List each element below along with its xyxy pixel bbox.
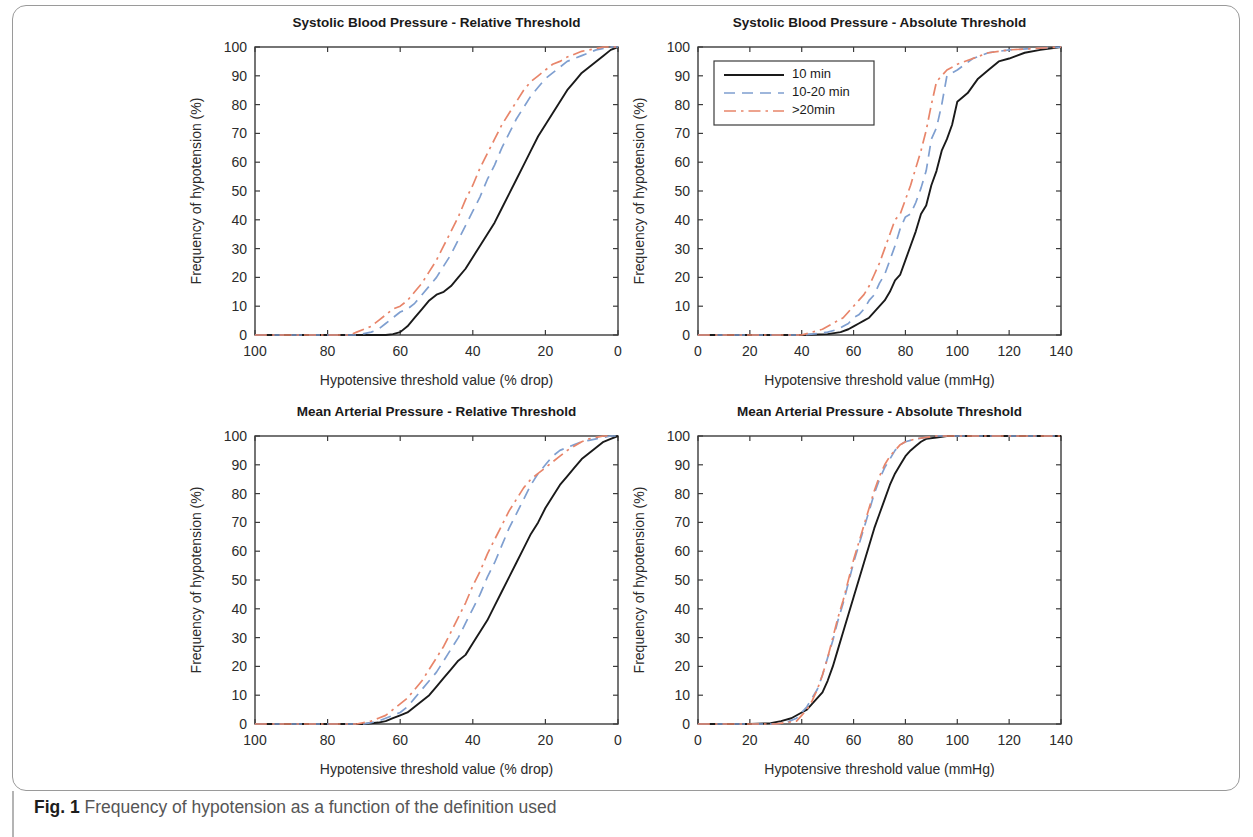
y-tick-label: 10 [231,687,247,703]
y-tick-label: 90 [231,457,247,473]
y-tick-label: 90 [674,457,690,473]
y-tick-label: 20 [231,658,247,674]
y-axis-label: Frequency of hypotension (%) [631,98,647,285]
y-tick-label: 10 [674,298,690,314]
x-tick-label: 100 [243,732,267,748]
chart-title: Systolic Blood Pressure - Relative Thres… [292,15,580,30]
chart-title: Mean Arterial Pressure - Absolute Thresh… [737,404,1022,419]
y-tick-label: 100 [224,39,248,55]
x-tick-label: 120 [997,343,1021,359]
chart-title: Systolic Blood Pressure - Absolute Thres… [733,15,1027,30]
x-tick-label: 100 [946,343,970,359]
x-tick-label: 100 [243,343,267,359]
y-tick-label: 50 [674,183,690,199]
chart-panel-map-absolute: Mean Arterial Pressure - Absolute Thresh… [626,400,1076,790]
chart-svg-sbp_relative: Systolic Blood Pressure - Relative Thres… [183,11,633,401]
y-tick-label: 30 [231,241,247,257]
y-tick-label: 20 [674,658,690,674]
x-tick-label: 20 [742,732,758,748]
y-tick-label: 80 [231,486,247,502]
series-line--20min [698,436,1061,724]
x-tick-label: 80 [320,343,336,359]
y-tick-label: 50 [231,183,247,199]
legend-label: 10-20 min [792,84,850,99]
legend-label: >20min [792,102,835,117]
y-tick-label: 40 [674,601,690,617]
y-tick-label: 80 [231,97,247,113]
y-tick-label: 60 [674,543,690,559]
x-tick-label: 140 [1049,343,1073,359]
x-tick-label: 80 [320,732,336,748]
chart-panel-map-relative: Mean Arterial Pressure - Relative Thresh… [183,400,633,790]
chart-panel-sbp-absolute: Systolic Blood Pressure - Absolute Thres… [626,11,1076,401]
x-tick-label: 80 [898,732,914,748]
panel-grid: Systolic Blood Pressure - Relative Thres… [13,6,1241,792]
y-tick-label: 50 [231,572,247,588]
x-tick-label: 40 [794,732,810,748]
caption-left-rule [12,791,14,837]
x-tick-label: 40 [794,343,810,359]
y-tick-label: 90 [231,68,247,84]
y-tick-label: 20 [674,269,690,285]
x-tick-label: 40 [465,732,481,748]
x-tick-label: 60 [846,343,862,359]
x-tick-label: 40 [465,343,481,359]
figure-caption: Fig. 1 Frequency of hypotension as a fun… [34,797,1134,818]
y-tick-label: 80 [674,486,690,502]
x-tick-label: 60 [392,343,408,359]
y-tick-label: 30 [674,241,690,257]
x-tick-label: 60 [392,732,408,748]
x-axis-label: Hypotensive threshold value (% drop) [320,372,553,388]
y-tick-label: 40 [231,601,247,617]
y-tick-label: 100 [667,39,691,55]
series-line-10-20-min [255,47,618,335]
x-tick-label: 0 [694,732,702,748]
y-tick-label: 60 [231,154,247,170]
chart-svg-map_absolute: Mean Arterial Pressure - Absolute Thresh… [626,400,1076,790]
y-tick-label: 30 [231,630,247,646]
y-tick-label: 90 [674,68,690,84]
series-line-10-min [255,436,618,724]
figure-card: Systolic Blood Pressure - Relative Thres… [12,5,1240,791]
figure-number: Fig. 1 [34,797,80,817]
series-line--20min [255,436,611,724]
chart-title: Mean Arterial Pressure - Relative Thresh… [297,404,576,419]
series-line-10-min [698,436,1061,724]
y-axis-label: Frequency of hypotension (%) [631,487,647,674]
x-tick-label: 80 [898,343,914,359]
y-tick-label: 70 [231,125,247,141]
x-axis-label: Hypotensive threshold value (% drop) [320,761,553,777]
x-tick-label: 60 [846,732,862,748]
chart-svg-map_relative: Mean Arterial Pressure - Relative Thresh… [183,400,633,790]
y-tick-label: 100 [667,428,691,444]
y-axis-label: Frequency of hypotension (%) [188,98,204,285]
x-tick-label: 20 [742,343,758,359]
axis-frame [255,47,618,335]
x-tick-label: 140 [1049,732,1073,748]
series-line-10-20-min [698,436,1061,724]
x-tick-label: 100 [946,732,970,748]
y-tick-label: 80 [674,97,690,113]
y-tick-label: 70 [674,514,690,530]
y-tick-label: 0 [239,716,247,732]
y-tick-label: 0 [682,716,690,732]
x-axis-label: Hypotensive threshold value (mmHg) [764,761,994,777]
chart-panel-sbp-relative: Systolic Blood Pressure - Relative Thres… [183,11,633,401]
y-tick-label: 0 [239,327,247,343]
x-tick-label: 120 [997,732,1021,748]
y-axis-label: Frequency of hypotension (%) [188,487,204,674]
y-tick-label: 10 [231,298,247,314]
x-axis-label: Hypotensive threshold value (mmHg) [764,372,994,388]
y-tick-label: 40 [674,212,690,228]
series-line-10-min [255,47,618,335]
x-tick-label: 20 [538,732,554,748]
y-tick-label: 30 [674,630,690,646]
figure-caption-text: Frequency of hypotension as a function o… [85,797,557,817]
x-tick-label: 0 [614,343,622,359]
y-tick-label: 70 [231,514,247,530]
x-tick-label: 20 [538,343,554,359]
series-line--20min [255,47,618,335]
y-tick-label: 70 [674,125,690,141]
y-tick-label: 100 [224,428,248,444]
chart-svg-sbp_absolute: Systolic Blood Pressure - Absolute Thres… [626,11,1076,401]
